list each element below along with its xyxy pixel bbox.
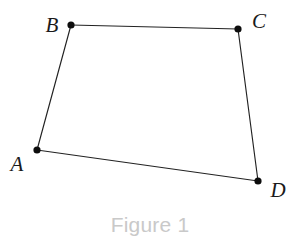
vertex-label-c: C xyxy=(252,9,267,33)
vertex-dot-a xyxy=(33,146,40,153)
figure-container: A B C D Figure 1 xyxy=(0,0,301,247)
vertex-dot-b xyxy=(67,21,74,28)
vertex-label-b: B xyxy=(46,13,59,37)
figure-background xyxy=(0,0,301,247)
figure-caption: Figure 1 xyxy=(111,213,190,236)
vertex-dot-c xyxy=(234,25,241,32)
quadrilateral-figure: A B C D Figure 1 xyxy=(0,0,301,247)
vertex-label-d: D xyxy=(269,178,285,202)
vertex-dot-d xyxy=(254,177,261,184)
vertex-label-a: A xyxy=(9,152,24,176)
